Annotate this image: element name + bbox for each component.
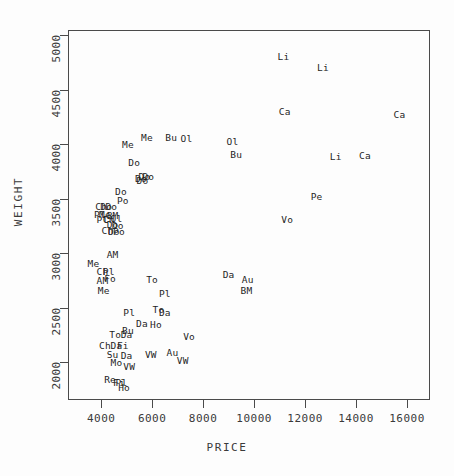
data-point-label: Ho [118,383,130,393]
y-tick-label: 2500 [50,307,63,353]
data-point-label: Vo [281,216,293,226]
x-tick-label: 16000 [377,412,437,425]
data-point-label: Bu [230,150,242,160]
data-point-label: Li [330,153,342,163]
data-point-label: Ho [150,320,162,330]
data-point-label: Au [242,276,254,286]
data-point-label: Do [128,158,140,168]
x-tick-mark [407,400,408,408]
data-point-label: Me [98,286,110,296]
data-point-label: Do [137,177,149,187]
data-point-label: Ca [279,107,291,117]
x-tick-mark [254,400,255,408]
data-point-label: Mo [111,358,123,368]
data-point-label: Li [317,63,329,73]
x-tick-mark [101,400,102,408]
data-point-label: To [109,330,121,340]
scatter-plot-screenshot: 2000250030003500400045005000 40006000800… [0,0,454,476]
y-tick-label: 2000 [50,361,63,407]
x-tick-mark [305,400,306,408]
data-point-label: Da [223,270,235,280]
y-tick-label: 5000 [50,35,63,81]
data-point-label: Da [159,308,171,318]
x-tick-mark [152,400,153,408]
y-tick-label: 4000 [50,144,63,190]
data-point-label: AM [107,251,119,261]
data-point-label: Ca [393,110,405,120]
y-tick-label: 3000 [50,253,63,299]
y-tick-label: 3500 [50,198,63,244]
data-point-label: Ca [359,151,371,161]
data-point-label: Me [122,141,134,151]
data-point-label: Bu [165,133,177,143]
x-axis-title: PRICE [0,441,454,454]
data-point-label: Fo [104,274,116,284]
data-point-label: Me [141,133,153,143]
data-point-label: Pe [311,192,323,202]
data-point-label: Ol [227,137,239,147]
data-point-label: Vo [183,332,195,342]
data-point-label: Pl [159,290,171,300]
data-point-label: BM [241,286,253,296]
data-point-label: To [146,276,158,286]
data-point-label: Fi [117,341,129,351]
x-tick-mark [356,400,357,408]
y-tick-label: 4500 [50,89,63,135]
x-tick-mark [203,400,204,408]
data-point-label: Po [117,196,129,206]
data-point-label: VW [177,356,189,366]
y-axis-title: WEIGHT [12,162,25,242]
data-point-label: Ol [181,134,193,144]
data-point-label: Pl [123,308,135,318]
data-point-label: VW [145,351,157,361]
data-point-label: Da [121,330,133,340]
data-point-label: VW [123,363,135,373]
data-point-label: Po [113,228,125,238]
data-point-label: Da [136,319,148,329]
data-point-label: Li [277,52,289,62]
